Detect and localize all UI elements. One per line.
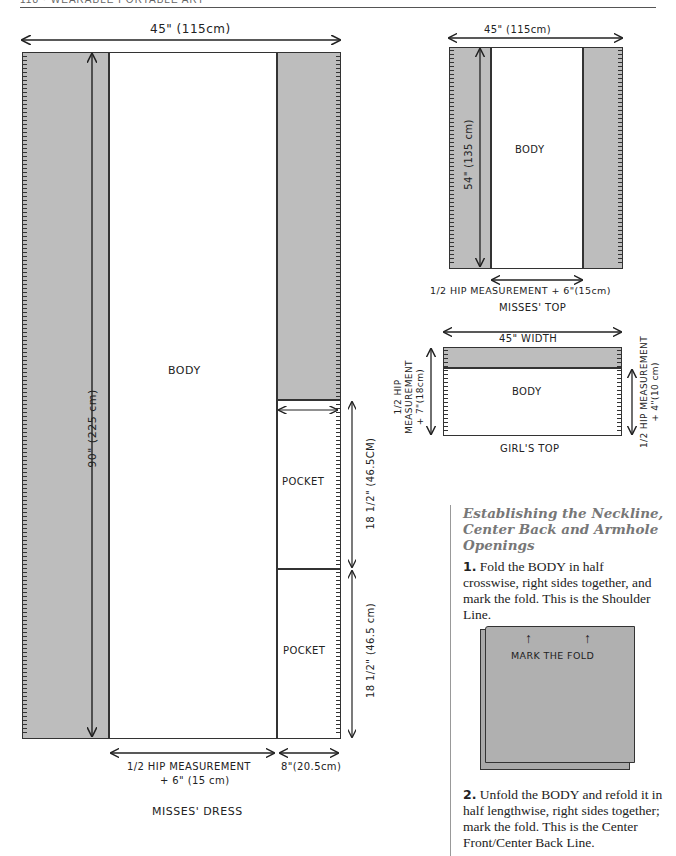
dress-width-label: 45" (115cm)	[150, 22, 231, 36]
arrow-up-icon: ↑	[584, 630, 591, 646]
girls-right-label-1: 1/2 HIP MEASUREMENT	[639, 327, 650, 457]
pocket-label-1: POCKET	[282, 476, 324, 487]
step-1-text: Fold the BODY in half crosswise, right s…	[463, 559, 651, 622]
top-hip-label: 1/2 HIP MEASUREMENT + 6"(15cm)	[430, 285, 611, 296]
misses-dress-caption: MISSES' DRESS	[152, 805, 243, 818]
pocket-dimension-1: 18 1/2" (46.5CM)	[365, 424, 376, 544]
arrow-up-icon: ↑	[525, 630, 532, 646]
top-body-label: BODY	[515, 144, 544, 155]
step-2-number: 2.	[463, 787, 476, 802]
pocket-dimension-2: 18 1/2" (46.5 cm)	[365, 591, 376, 711]
fabric-front-layer	[485, 626, 635, 763]
girls-right-label-2: + 4"(10 cm)	[650, 327, 661, 457]
misses-dress-diagram: 45" (115cm) 90" (225 cm) BODY POCKET POC…	[0, 0, 380, 856]
top-length-label: 54" (135 cm)	[463, 100, 474, 210]
step-2-text: Unfold the BODY and refold it in half le…	[463, 787, 662, 850]
top-width-label: 45" (115cm)	[484, 24, 551, 35]
mark-the-fold-label: MARK THE FOLD	[511, 650, 594, 661]
hip-measurement-label: 1/2 HIP MEASUREMENT	[127, 761, 251, 772]
step-1-number: 1.	[463, 559, 476, 574]
pocket-width-label: 8"(20.5cm)	[281, 761, 341, 772]
fold-illustration: ↑ ↑ MARK THE FOLD	[483, 626, 637, 776]
girls-left-label-2: MEASUREMENT	[404, 337, 415, 457]
girls-top-caption: GIRL'S TOP	[500, 443, 560, 454]
instructions-column: Establishing the Neckline, Center Back a…	[450, 505, 676, 856]
girls-right-label: 1/2 HIP MEASUREMENT + 4"(10 cm)	[639, 327, 663, 457]
girls-left-label-1: 1/2 HIP	[393, 337, 404, 457]
pocket-label-2: POCKET	[283, 645, 325, 656]
girls-top-diagram: 45" WIDTH BODY 1/2 HIP MEASUREMENT + 7"(…	[380, 320, 676, 460]
hip-measurement-label-2: + 6" (15 cm)	[160, 775, 229, 786]
dress-length-label: 90" (225 cm)	[86, 369, 99, 489]
girls-left-label: 1/2 HIP MEASUREMENT + 7"(18cm)	[393, 337, 429, 457]
dress-body-label: BODY	[168, 364, 201, 377]
step-2: 2. Unfold the BODY and refold it in half…	[463, 787, 673, 851]
dimension-arrows	[0, 0, 380, 856]
misses-top-caption: MISSES' TOP	[499, 302, 566, 313]
section-heading: Establishing the Neckline, Center Back a…	[463, 505, 673, 553]
girls-width-label: 45" WIDTH	[499, 333, 557, 344]
girls-body-label: BODY	[512, 386, 541, 397]
girls-left-label-3: + 7"(18cm)	[415, 337, 426, 457]
step-1: 1. Fold the BODY in half crosswise, righ…	[463, 559, 663, 623]
misses-top-diagram: 45" (115cm) 54" (135 cm) BODY 1/2 HIP ME…	[380, 0, 676, 300]
